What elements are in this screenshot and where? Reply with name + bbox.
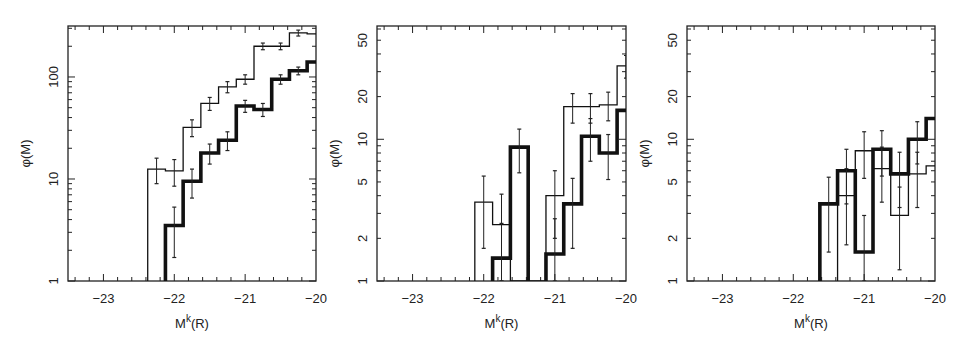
x-tick-label: −22	[473, 291, 495, 306]
y-tick-label: 20	[355, 89, 370, 103]
y-axis-label: φ(M)	[18, 140, 33, 168]
x-tick-label: −21	[544, 291, 566, 306]
figure-canvas: −23−22−21−20110100φ(M)Mk(R)−23−22−21−201…	[0, 0, 976, 347]
plot-frame	[687, 26, 935, 281]
y-tick-label: 50	[355, 33, 370, 47]
y-tick-label: 100	[46, 66, 61, 88]
x-tick-label: −22	[163, 291, 185, 306]
thick-histogram-line	[165, 62, 316, 283]
x-tick-label: −20	[305, 291, 327, 306]
chart-panel-1: −23−22−21−20110100φ(M)Mk(R)	[18, 26, 327, 331]
x-axis-label: Mk(R)	[485, 313, 519, 331]
y-axis-label: φ(M)	[637, 140, 652, 168]
y-tick-label: 5	[355, 178, 370, 185]
x-tick-label: −23	[711, 291, 733, 306]
y-axis-label: φ(M)	[327, 140, 342, 168]
x-tick-label: −20	[924, 291, 946, 306]
y-tick-label: 20	[665, 89, 680, 103]
x-axis-label: Mk(R)	[175, 313, 209, 331]
y-tick-label: 1	[665, 277, 680, 284]
y-tick-label: 50	[665, 33, 680, 47]
x-tick-label: −21	[853, 291, 875, 306]
x-axis-label: Mk(R)	[794, 313, 828, 331]
x-tick-label: −23	[92, 291, 114, 306]
y-tick-label: 10	[355, 132, 370, 146]
plot-frame	[68, 26, 316, 281]
y-tick-label: 10	[665, 132, 680, 146]
thick-histogram-line	[493, 110, 626, 283]
x-tick-label: −22	[782, 291, 804, 306]
x-tick-label: −21	[234, 291, 256, 306]
y-tick-label: 10	[46, 172, 61, 186]
y-tick-label: 1	[355, 277, 370, 284]
y-tick-label: 5	[665, 178, 680, 185]
x-tick-label: −20	[615, 291, 637, 306]
y-tick-label: 2	[665, 235, 680, 242]
chart-panel-3: −23−22−21−20125102050φ(M)Mk(R)	[637, 26, 946, 331]
y-tick-label: 1	[46, 277, 61, 284]
x-tick-label: −23	[402, 291, 424, 306]
y-tick-label: 2	[355, 235, 370, 242]
chart-panel-2: −23−22−21−20125102050φ(M)Mk(R)	[327, 26, 637, 331]
